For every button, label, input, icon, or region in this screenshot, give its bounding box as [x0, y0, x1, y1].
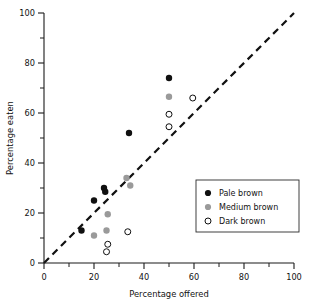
chart-canvas: 0 20 40 60 80 100 Percentage eaten: [0, 0, 317, 306]
y-axis-ticks: [38, 13, 44, 263]
data-point: [166, 111, 172, 117]
data-point: [105, 211, 111, 217]
data-point: [102, 189, 108, 195]
x-tick-label-0: 0: [41, 272, 46, 282]
data-points-layer: [78, 75, 195, 255]
legend-label-dark-brown: Dark brown: [219, 217, 265, 226]
y-tick-label-60: 60: [25, 108, 35, 118]
data-point: [91, 232, 97, 238]
y-tick-label-80: 80: [25, 58, 35, 68]
x-tick-label-20: 20: [89, 272, 99, 282]
scatter-chart: 0 20 40 60 80 100 Percentage eaten: [0, 0, 317, 306]
series-medium-brown: [91, 94, 172, 239]
x-tick-label-40: 40: [139, 272, 149, 282]
data-point: [127, 182, 133, 188]
data-point: [166, 75, 172, 81]
data-point: [126, 130, 132, 136]
series-dark-brown: [104, 95, 196, 255]
x-axis: 0 20 40 60 80 100 Percentage offered: [41, 263, 301, 299]
y-axis: 0 20 40 60 80 100 Percentage eaten: [5, 8, 44, 268]
data-point: [104, 249, 110, 255]
data-point: [103, 227, 109, 233]
y-tick-label-40: 40: [25, 158, 35, 168]
y-tick-label-0: 0: [30, 258, 35, 268]
x-axis-ticks: [44, 263, 294, 269]
y-axis-title: Percentage eaten: [5, 101, 15, 175]
data-point: [166, 94, 172, 100]
legend-label-pale-brown: Pale brown: [219, 189, 263, 198]
y-tick-label-100: 100: [19, 8, 35, 18]
series-pale-brown: [78, 75, 172, 234]
legend-marker-medium-brown: [205, 204, 211, 210]
x-axis-title: Percentage offered: [129, 289, 209, 299]
data-point: [190, 95, 196, 101]
legend: Pale brown Medium brown Dark brown: [196, 180, 299, 232]
data-point: [123, 175, 129, 181]
legend-label-medium-brown: Medium brown: [219, 203, 278, 212]
data-point: [166, 124, 172, 130]
data-point: [91, 197, 97, 203]
x-tick-label-80: 80: [239, 272, 249, 282]
legend-marker-dark-brown: [205, 218, 211, 224]
y-tick-label-20: 20: [25, 208, 35, 218]
data-point: [78, 227, 84, 233]
x-tick-label-60: 60: [189, 272, 199, 282]
data-point: [125, 229, 131, 235]
x-tick-label-100: 100: [286, 272, 302, 282]
data-point: [105, 241, 111, 247]
legend-marker-pale-brown: [205, 190, 211, 196]
